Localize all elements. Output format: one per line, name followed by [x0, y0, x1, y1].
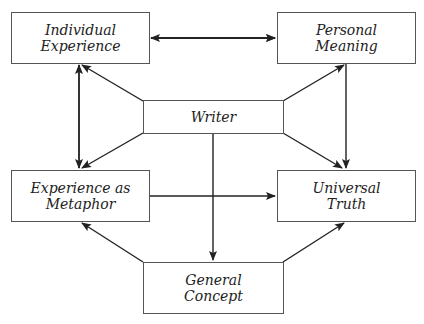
edge-writer-metaphor — [82, 133, 143, 168]
edge-writer-universal — [283, 133, 342, 168]
edge-writer-individual — [82, 65, 143, 101]
edge-general-metaphor — [82, 223, 143, 262]
node-label: Universal Truth — [312, 180, 380, 212]
node-label: General Concept — [184, 272, 243, 304]
node-label: Individual Experience — [41, 22, 121, 54]
node-individual-experience: Individual Experience — [11, 12, 150, 64]
edge-general-universal — [283, 223, 344, 262]
node-general-concept: General Concept — [143, 262, 284, 314]
node-label: Writer — [191, 109, 237, 125]
node-experience-as-metaphor: Experience as Metaphor — [11, 170, 150, 222]
node-personal-meaning: Personal Meaning — [277, 12, 416, 64]
edge-writer-personal — [283, 65, 344, 101]
node-label: Personal Meaning — [315, 22, 377, 54]
node-universal-truth: Universal Truth — [277, 170, 416, 222]
concept-diagram: Individual Experience Personal Meaning W… — [0, 0, 424, 324]
node-label: Experience as Metaphor — [31, 180, 131, 212]
node-writer: Writer — [143, 100, 284, 134]
